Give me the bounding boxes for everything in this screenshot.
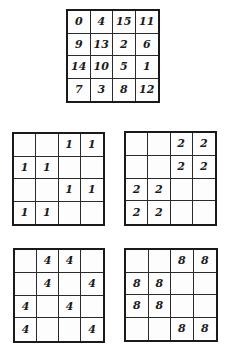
grid-cell: 2 <box>193 133 215 156</box>
bit-2-grid: 2 2 2 2 2 2 2 2 <box>124 131 217 226</box>
grid-cell: 15 <box>113 11 136 34</box>
grid-cell: 5 <box>113 56 136 79</box>
grid-cell <box>15 273 37 296</box>
grid-cell <box>171 273 194 296</box>
grid-cell: 8 <box>149 273 172 296</box>
grid-cell: 4 <box>15 318 37 341</box>
grid-cell <box>37 296 59 319</box>
grid-cell <box>36 134 58 157</box>
grid-cell: 8 <box>171 250 194 273</box>
grid-cell: 2 <box>171 133 193 156</box>
grid-cell <box>81 202 103 225</box>
bit-8-grid: 8 8 8 8 8 8 8 8 <box>124 248 218 342</box>
grid-cell: 1 <box>36 202 58 225</box>
grid-cell <box>81 296 103 319</box>
grid-cell: 4 <box>81 273 103 296</box>
grid-cell: 4 <box>59 250 81 273</box>
grid-cell: 6 <box>136 34 159 57</box>
grid-cell: 1 <box>59 179 81 202</box>
grid-cell <box>193 179 215 202</box>
grid-cell: 1 <box>36 157 58 180</box>
grid-cell <box>81 250 103 273</box>
grid-cell <box>126 133 148 156</box>
grid-cell: 2 <box>126 179 148 202</box>
grid-cell <box>59 157 81 180</box>
grid-cell <box>171 201 193 224</box>
grid-cell <box>194 295 217 318</box>
grid-cell: 8 <box>113 79 136 102</box>
grid-cell: 4 <box>91 11 114 34</box>
grid-cell <box>37 318 59 341</box>
grid-cell: 4 <box>81 318 103 341</box>
grid-cell: 3 <box>91 79 114 102</box>
grid-cell <box>193 201 215 224</box>
grid-cell <box>149 318 172 341</box>
grid-cell: 4 <box>37 250 59 273</box>
grid-cell: 1 <box>81 134 103 157</box>
grid-cell: 8 <box>126 273 149 296</box>
grid-cell <box>15 250 37 273</box>
grid-cell <box>59 318 81 341</box>
grid-cell: 1 <box>14 202 36 225</box>
grid-cell: 8 <box>171 318 194 341</box>
grid-cell <box>148 133 170 156</box>
grid-cell <box>194 273 217 296</box>
grid-cell: 7 <box>68 79 91 102</box>
grid-cell: 2 <box>126 201 148 224</box>
grid-cell: 8 <box>149 295 172 318</box>
grid-cell: 1 <box>14 157 36 180</box>
bit-1-grid: 1 1 1 1 1 1 1 1 <box>12 132 105 226</box>
grid-cell: 2 <box>148 201 170 224</box>
grid-cell <box>59 202 81 225</box>
grid-cell <box>126 318 149 341</box>
grid-cell <box>81 157 103 180</box>
grid-cell: 1 <box>136 56 159 79</box>
grid-cell: 4 <box>59 296 81 319</box>
grid-cell: 8 <box>194 318 217 341</box>
grid-cell: 8 <box>126 295 149 318</box>
grid-cell: 2 <box>148 179 170 202</box>
grid-cell: 9 <box>68 34 91 57</box>
grid-cell: 1 <box>59 134 81 157</box>
grid-cell: 0 <box>68 11 91 34</box>
grid-cell <box>36 179 58 202</box>
grid-cell <box>14 134 36 157</box>
grid-cell <box>148 156 170 179</box>
grid-cell <box>126 156 148 179</box>
grid-cell: 11 <box>136 11 159 34</box>
grid-cell <box>171 179 193 202</box>
grid-cell: 12 <box>136 79 159 102</box>
grid-cell <box>149 250 172 273</box>
grid-cell: 4 <box>37 273 59 296</box>
grid-cell: 14 <box>68 56 91 79</box>
number-square-grid: 0 4 15 11 9 13 2 6 14 10 5 1 7 3 8 12 <box>66 9 160 103</box>
grid-cell: 1 <box>81 179 103 202</box>
grid-cell: 8 <box>194 250 217 273</box>
grid-cell <box>59 273 81 296</box>
grid-cell: 4 <box>15 296 37 319</box>
grid-cell <box>14 179 36 202</box>
bit-4-grid: 4 4 4 4 4 4 4 4 <box>13 248 105 343</box>
grid-cell: 2 <box>113 34 136 57</box>
grid-cell <box>126 250 149 273</box>
grid-cell: 2 <box>171 156 193 179</box>
grid-cell <box>171 295 194 318</box>
grid-cell: 13 <box>91 34 114 57</box>
grid-cell: 10 <box>91 56 114 79</box>
grid-cell: 2 <box>193 156 215 179</box>
